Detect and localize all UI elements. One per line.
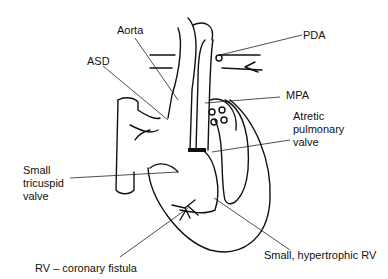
label-atretic-pulmonary-valve: Atretic pulmonary valve	[293, 110, 344, 149]
label-pda: PDA	[303, 29, 326, 42]
right-atrium	[116, 98, 160, 194]
label-asd: ASD	[87, 55, 110, 68]
label-small-tricuspid-valve: Small tricuspid valve	[23, 164, 64, 203]
label-mpa: MPA	[286, 89, 309, 102]
label-small-hypertrophic-rv: Small, hypertrophic RV	[264, 249, 376, 262]
leader-lines	[70, 35, 302, 257]
diagram-canvas: Aorta ASD PDA MPA Atretic pulmonary valv…	[0, 0, 388, 279]
label-aorta: Aorta	[117, 24, 143, 37]
left-atrium	[209, 107, 227, 125]
label-rv-coronary-fistula: RV – coronary fistula	[35, 262, 137, 275]
